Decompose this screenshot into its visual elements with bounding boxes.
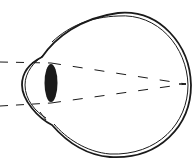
light-ray-lower-refracted [51, 84, 186, 103]
light-ray-upper-refracted [51, 63, 186, 84]
cornea [25, 55, 46, 118]
light-ray-lower-incoming [0, 103, 51, 106]
lens [45, 64, 58, 102]
light-ray-upper-incoming [0, 62, 51, 63]
cornea-junction-upper [40, 50, 48, 58]
eye-diagram: eye-cross-section [0, 0, 195, 165]
eyeball-inner-wall [52, 16, 188, 154]
eye-diagram-svg [0, 0, 195, 165]
